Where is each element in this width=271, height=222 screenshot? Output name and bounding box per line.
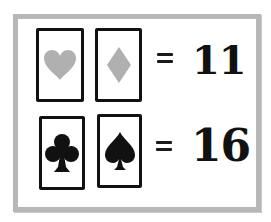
- diamond-icon: [106, 46, 132, 84]
- card-club: [39, 116, 85, 190]
- row-1-value: 11: [192, 40, 246, 80]
- row-2-value: 16: [191, 124, 250, 168]
- equals-sign: [157, 53, 173, 63]
- card-spade: [97, 114, 142, 188]
- club-icon: [45, 133, 79, 173]
- card-heart: [36, 28, 84, 102]
- card-diamond: [95, 28, 142, 102]
- heart-icon: [43, 49, 77, 81]
- spade-icon: [104, 131, 136, 171]
- equals-sign: [156, 141, 172, 151]
